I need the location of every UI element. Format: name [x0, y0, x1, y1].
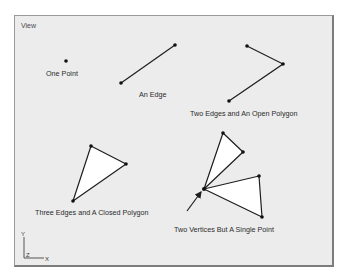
- axis-y-label: Y: [21, 231, 25, 237]
- pointer-arrow-icon: [187, 192, 201, 211]
- vertex-point: [281, 62, 285, 66]
- vertex-point: [221, 131, 225, 135]
- example-open-polygon: Two Edges and An Open Polygon: [190, 44, 298, 118]
- vertex-point: [260, 215, 264, 219]
- vertex-point: [119, 81, 123, 85]
- example-shared-vertex: Two Vertices But A Single Point: [174, 131, 274, 234]
- vertex-point: [241, 150, 245, 154]
- open-polyline: [229, 46, 283, 101]
- example-closed-polygon: Three Edges and A Closed Polygon: [35, 144, 148, 217]
- example-one-point: One Point: [46, 59, 78, 78]
- label-closed-polygon: Three Edges and A Closed Polygon: [35, 208, 148, 217]
- vertex-point: [227, 99, 231, 103]
- vertex-point: [124, 162, 128, 166]
- label-open-polygon: Two Edges and An Open Polygon: [190, 109, 298, 118]
- edge-line: [121, 45, 175, 83]
- vertex-point: [257, 174, 261, 178]
- geometry-scene: One Point An Edge Two Edges and An Open …: [0, 0, 348, 279]
- lower-triangle: [204, 176, 262, 217]
- closed-triangle: [73, 146, 126, 201]
- example-an-edge: An Edge: [119, 43, 177, 99]
- axis-triad: Y Z X: [21, 231, 49, 262]
- label-shared-vertex: Two Vertices But A Single Point: [174, 225, 274, 234]
- label-one-point: One Point: [46, 69, 78, 78]
- vertex-point: [64, 59, 68, 63]
- shared-vertex-point: [202, 187, 206, 191]
- axis-x-label: X: [45, 256, 49, 262]
- vertex-point: [89, 144, 93, 148]
- axis-z-label: Z: [26, 252, 30, 258]
- vertex-point: [245, 44, 249, 48]
- figure-stage: View One Point An Edge Two Edges and An …: [0, 0, 348, 279]
- label-an-edge: An Edge: [139, 90, 167, 99]
- vertex-point: [71, 199, 75, 203]
- vertex-point: [173, 43, 177, 47]
